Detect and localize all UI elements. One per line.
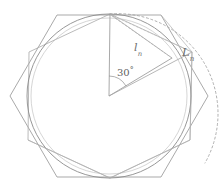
- label-big-l: Ln: [182, 47, 194, 60]
- radius-to-apex: [109, 14, 110, 96]
- label-small-l-base: l: [134, 41, 138, 54]
- degree-icon: °: [130, 65, 134, 74]
- inner-hexagon-edge-bottom-right: [110, 140, 190, 178]
- label-angle-value: 30: [117, 67, 130, 78]
- label-angle-30-degrees: 30°: [117, 66, 134, 78]
- geometry-figure: ln Ln 30°: [0, 0, 219, 189]
- figure-canvas: [0, 0, 219, 189]
- label-big-l-base: L: [182, 45, 190, 59]
- inner-hexagon-edge-bottom-left: [28, 140, 110, 178]
- label-big-l-subscript: n: [190, 54, 195, 63]
- label-small-l: ln: [134, 42, 142, 56]
- dashed-circumscribed-arc: [110, 14, 218, 163]
- label-small-l-subscript: n: [138, 50, 142, 58]
